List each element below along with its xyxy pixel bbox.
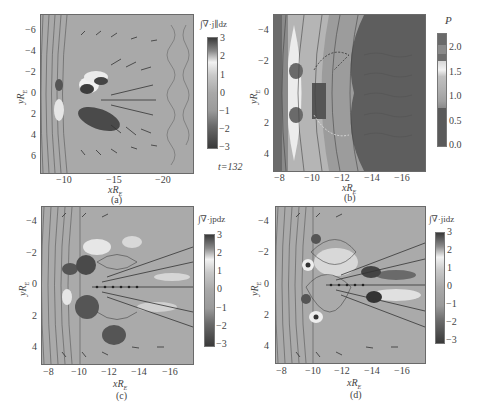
xtick-label: −10 [56, 175, 72, 185]
ytick-label: 4 [264, 149, 269, 159]
ytick-label: 0 [32, 279, 37, 289]
colorbar-tick: −2 [446, 317, 457, 327]
xtick-label: −8 [274, 173, 285, 183]
ytick-label: −6 [25, 25, 36, 35]
colorbar-title: P [445, 14, 452, 26]
colorbar-tick: 1.0 [449, 91, 462, 101]
colorbar-tick: −1 [446, 299, 457, 309]
ytick-label: −4 [26, 216, 37, 226]
panel-caption: (b) [344, 192, 356, 203]
xtick-label: −16 [394, 173, 410, 183]
ytick-label: −4 [258, 25, 269, 35]
ytick-label: −2 [25, 67, 36, 77]
heatmap-a-graphic [41, 15, 193, 173]
colorbar-a [207, 37, 218, 149]
xtick-label: −20 [155, 175, 171, 185]
heatmap-plot-c [41, 206, 194, 365]
xtick-label: −10 [304, 173, 320, 183]
ytick-label: −2 [258, 56, 269, 66]
colorbar-tick: 3 [220, 33, 225, 43]
colorbar-tick: 3 [447, 227, 452, 237]
ytick-label: 2 [31, 109, 36, 119]
ytick-label: 0 [264, 279, 269, 289]
xtick-label: −16 [162, 367, 178, 377]
xtick-label: −10 [305, 366, 321, 376]
xtick-label: −14 [131, 367, 147, 377]
ytick-label: −2 [258, 247, 269, 257]
colorbar-tick: 2 [217, 248, 222, 258]
colorbar-tick: −2 [219, 124, 230, 134]
panel-caption: (d) [350, 389, 362, 400]
ytick-label: 6 [31, 151, 36, 161]
colorbar-tick: 2 [220, 51, 225, 61]
colorbar-tick: 0.5 [449, 116, 462, 126]
xtick-label: −14 [364, 366, 380, 376]
y-axis-label: yRE [249, 282, 262, 296]
panel-caption: (a) [111, 194, 122, 205]
colorbar-tick: −3 [219, 142, 230, 152]
ytick-label: −2 [26, 248, 37, 258]
colorbar-tick: 0 [217, 284, 222, 294]
heatmap-c-graphic [42, 207, 193, 364]
colorbar-tick: 1.5 [449, 67, 462, 77]
heatmap-plot-b [273, 14, 426, 172]
colorbar-c [204, 234, 215, 347]
heatmap-plot-a [40, 14, 194, 174]
ytick-label: −4 [258, 216, 269, 226]
colorbar-tick: 1 [220, 70, 225, 80]
colorbar-title: ∫∇·jidz [429, 214, 454, 224]
ytick-label: 2 [32, 311, 37, 321]
xtick-label: −12 [334, 366, 350, 376]
colorbar-tick: 2.0 [449, 42, 462, 52]
y-axis-label: yRE [15, 90, 28, 104]
ytick-label: 0 [264, 87, 269, 97]
colorbar-tick: 1 [447, 263, 452, 273]
colorbar-tick: −3 [216, 339, 227, 349]
colorbar-tick: −1 [219, 106, 230, 116]
colorbar-tick: 3 [217, 230, 222, 240]
colorbar-title: ∫∇·j∥dz [200, 19, 227, 29]
xtick-label: −8 [43, 367, 54, 377]
colorbar-tick: 0 [220, 88, 225, 98]
xtick-label: −14 [364, 173, 380, 183]
xtick-label: −8 [276, 366, 287, 376]
colorbar-title: ∫∇·jpdz [198, 214, 225, 224]
xtick-label: −12 [101, 367, 117, 377]
ytick-label: 2 [264, 118, 269, 128]
y-axis-label: yRE [248, 90, 261, 104]
panel-caption: (c) [116, 390, 127, 401]
ytick-label: 0 [31, 88, 36, 98]
colorbar-tick: −3 [446, 335, 457, 345]
time-annotation: t=132 [218, 161, 243, 172]
colorbar-tick: −2 [216, 321, 227, 331]
colorbar-tick: −1 [216, 303, 227, 313]
ytick-label: −4 [25, 46, 36, 56]
colorbar-tick: 0 [447, 281, 452, 291]
heatmap-d-graphic [276, 207, 425, 363]
ytick-label: 2 [264, 310, 269, 320]
colorbar-tick: 2 [447, 245, 452, 255]
ytick-label: 4 [264, 341, 269, 351]
colorbar-tick: 1 [217, 266, 222, 276]
colorbar-d [435, 232, 445, 344]
heatmap-plot-d [275, 206, 426, 364]
xtick-label: −10 [71, 367, 87, 377]
xtick-label: −16 [394, 366, 410, 376]
ytick-label: 4 [32, 342, 37, 352]
ytick-label: 4 [31, 130, 36, 140]
y-axis-label: yRE [17, 282, 30, 296]
colorbar-tick: 0.0 [449, 140, 462, 150]
heatmap-b-graphic [274, 15, 425, 171]
colorbar-b [437, 33, 447, 147]
